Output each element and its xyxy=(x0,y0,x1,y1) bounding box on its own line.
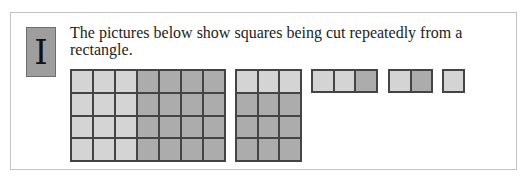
question-label-badge: I xyxy=(26,27,56,77)
question-letter: I xyxy=(34,35,47,69)
figure-square-1x1 xyxy=(442,69,465,93)
figure-rectangle-3x4 xyxy=(235,69,302,162)
figure-rectangle-2x1 xyxy=(388,69,433,93)
instruction-text: The pictures below show squares being cu… xyxy=(70,24,510,58)
figure-rectangle-7x4 xyxy=(70,69,226,162)
figure-rectangle-3x1 xyxy=(311,69,378,93)
